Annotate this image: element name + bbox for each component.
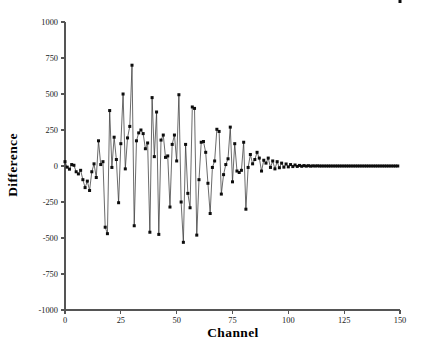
data-point-marker bbox=[244, 208, 247, 211]
data-point-marker bbox=[247, 166, 250, 169]
data-point-marker bbox=[131, 64, 134, 67]
data-point-marker bbox=[90, 170, 93, 173]
data-point-marker bbox=[186, 192, 189, 195]
data-point-marker bbox=[133, 224, 136, 227]
data-point-marker bbox=[276, 160, 279, 163]
data-point-marker bbox=[206, 182, 209, 185]
y-axis-title: Difference bbox=[5, 133, 20, 197]
data-point-marker bbox=[68, 168, 71, 171]
data-point-marker bbox=[399, 0, 402, 3]
data-point-marker bbox=[220, 193, 223, 196]
data-point-marker bbox=[97, 139, 100, 142]
y-tick-label: -1000 bbox=[38, 306, 58, 315]
data-point-marker bbox=[81, 178, 84, 181]
data-point-marker bbox=[231, 180, 234, 183]
data-point-marker bbox=[99, 163, 102, 166]
data-point-marker bbox=[233, 142, 236, 145]
data-point-marker bbox=[151, 96, 154, 99]
data-point-marker bbox=[157, 233, 160, 236]
data-point-marker bbox=[189, 206, 192, 209]
data-point-marker bbox=[137, 131, 140, 134]
x-tick-label: 100 bbox=[282, 316, 295, 325]
x-tick-label: 125 bbox=[338, 316, 351, 325]
data-point-marker bbox=[148, 231, 151, 234]
data-point-marker bbox=[84, 186, 87, 189]
data-point-marker bbox=[184, 143, 187, 146]
data-point-marker bbox=[162, 134, 165, 137]
data-point-marker bbox=[240, 169, 243, 172]
data-point-marker bbox=[211, 166, 214, 169]
data-point-marker bbox=[119, 142, 122, 145]
data-point-marker bbox=[265, 162, 268, 165]
data-point-marker bbox=[146, 141, 149, 144]
data-point-marker bbox=[177, 93, 180, 96]
difference-vs-channel-line-chart: -1000-750-500-25002505007501000 02550751… bbox=[0, 0, 427, 346]
data-point-marker bbox=[171, 143, 174, 146]
x-tick-label: 75 bbox=[228, 316, 236, 325]
y-tick-label: 0 bbox=[54, 162, 58, 171]
data-point-marker bbox=[262, 159, 265, 162]
data-point-marker bbox=[117, 201, 120, 204]
data-point-marker bbox=[86, 180, 89, 183]
data-point-marker bbox=[108, 109, 111, 112]
data-point-marker bbox=[106, 232, 109, 235]
data-point-marker bbox=[269, 166, 272, 169]
data-point-marker bbox=[278, 166, 281, 169]
data-point-marker bbox=[160, 139, 163, 142]
data-point-marker bbox=[227, 157, 230, 160]
data-point-marker bbox=[260, 170, 263, 173]
data-point-marker bbox=[251, 162, 254, 165]
data-point-marker bbox=[77, 172, 80, 175]
data-point-marker bbox=[202, 140, 205, 143]
x-tick-label: 0 bbox=[63, 316, 67, 325]
data-point-marker bbox=[209, 212, 212, 215]
data-point-marker bbox=[213, 159, 216, 162]
y-tick-label: 1000 bbox=[41, 18, 58, 27]
data-point-marker bbox=[139, 129, 142, 132]
y-tick-label: -250 bbox=[43, 198, 58, 207]
data-point-marker bbox=[173, 134, 176, 137]
data-point-marker bbox=[144, 147, 147, 150]
y-tick-label: 250 bbox=[45, 126, 58, 135]
data-point-marker bbox=[72, 164, 75, 167]
y-tick-label: -500 bbox=[43, 234, 58, 243]
data-point-marker bbox=[128, 125, 131, 128]
data-point-marker bbox=[180, 201, 183, 204]
data-point-marker bbox=[218, 130, 221, 133]
data-point-marker bbox=[273, 167, 276, 170]
data-point-marker bbox=[222, 173, 225, 176]
data-point-marker bbox=[175, 159, 178, 162]
data-point-marker bbox=[101, 160, 104, 163]
x-tick-label: 50 bbox=[172, 316, 180, 325]
data-point-marker bbox=[280, 162, 283, 165]
data-point-marker bbox=[396, 165, 399, 168]
data-point-marker bbox=[79, 169, 82, 172]
data-point-marker bbox=[249, 153, 252, 156]
data-point-marker bbox=[253, 158, 256, 161]
data-point-marker bbox=[193, 107, 196, 110]
data-point-marker bbox=[110, 166, 113, 169]
data-point-marker bbox=[104, 226, 107, 229]
data-point-marker bbox=[93, 162, 96, 165]
x-tick-label: 25 bbox=[117, 316, 125, 325]
data-point-marker bbox=[155, 111, 158, 114]
data-point-marker bbox=[256, 151, 259, 154]
chart-figure: -1000-750-500-25002505007501000 02550751… bbox=[0, 0, 427, 346]
data-point-marker bbox=[258, 157, 261, 160]
data-point-marker bbox=[113, 136, 116, 139]
y-tick-label: -750 bbox=[43, 270, 58, 279]
y-tick-label: 500 bbox=[45, 90, 58, 99]
data-point-marker bbox=[124, 167, 127, 170]
data-point-marker bbox=[135, 139, 138, 142]
data-point-marker bbox=[198, 178, 201, 181]
data-point-marker bbox=[195, 234, 198, 237]
data-point-marker bbox=[229, 126, 232, 129]
data-point-marker bbox=[64, 160, 67, 163]
plot-background bbox=[0, 0, 427, 346]
x-tick-label: 150 bbox=[394, 316, 407, 325]
data-point-marker bbox=[95, 176, 98, 179]
y-tick-label: 750 bbox=[45, 54, 58, 63]
data-point-marker bbox=[122, 93, 125, 96]
data-point-marker bbox=[224, 163, 227, 166]
data-point-marker bbox=[168, 206, 171, 209]
